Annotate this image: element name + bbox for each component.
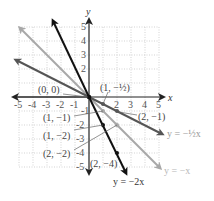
svg-text:2: 2 (114, 99, 119, 110)
point-2-neg-4 (115, 151, 119, 155)
svg-text:3: 3 (81, 49, 86, 60)
coordinate-plane-chart: x y -5 -4 -3 -2 -1 2 3 4 5 5 4 3 2 -1 -2… (0, 0, 214, 201)
label-2-neg-1: (2, −1) (138, 111, 165, 123)
label-1-neg-half: (1, −½) (100, 82, 130, 94)
label-2-neg-2: (2, −2) (43, 148, 70, 160)
label-2-neg-4: (2, −4) (90, 158, 117, 170)
y-axis-label: y (85, 6, 91, 17)
svg-text:-4: -4 (76, 147, 84, 158)
label-origin: (0, 0) (38, 84, 60, 96)
svg-text:3: 3 (128, 99, 133, 110)
svg-text:5: 5 (81, 21, 86, 32)
svg-text:-5: -5 (76, 161, 84, 172)
svg-text:5: 5 (156, 99, 161, 110)
svg-text:-3: -3 (76, 133, 84, 144)
svg-text:-4: -4 (28, 99, 36, 110)
x-axis-label: x (167, 92, 173, 103)
label-line-neg-x: y = −x (164, 165, 190, 176)
label-1-neg-2: (1, −2) (43, 130, 70, 142)
point-2-neg-1 (115, 109, 119, 113)
svg-text:2: 2 (81, 63, 86, 74)
svg-text:4: 4 (81, 35, 86, 46)
svg-text:-3: -3 (42, 99, 50, 110)
svg-text:-2: -2 (56, 99, 64, 110)
label-line-neg-2x: y = −2x (113, 176, 144, 187)
svg-text:4: 4 (142, 99, 147, 110)
svg-text:-5: -5 (14, 99, 22, 110)
label-1-neg-1: (1, −1) (43, 112, 70, 124)
label-line-neg-half-x: y = −½x (167, 128, 201, 139)
svg-text:-1: -1 (70, 99, 78, 110)
